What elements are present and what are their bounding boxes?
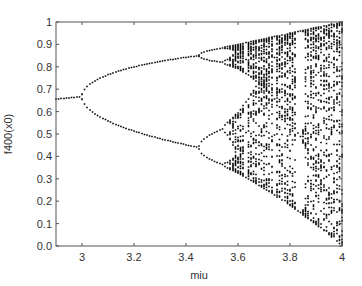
y-tick-label: 0.1 — [37, 218, 52, 230]
y-tick-label: 0.2 — [37, 195, 52, 207]
x-tick-label: 3.4 — [178, 251, 193, 263]
x-axis-label: miu — [190, 269, 208, 281]
x-tick-label: 3.6 — [230, 251, 245, 263]
x-tick-label: 3 — [79, 251, 85, 263]
y-tick-label: 0.8 — [37, 61, 52, 73]
y-tick-label: 0.0 — [37, 240, 52, 252]
x-tick-label: 4 — [339, 251, 345, 263]
y-tick-label: 0.3 — [37, 173, 52, 185]
y-tick-label: 0.7 — [37, 83, 52, 95]
y-axis-ticks: 0.00.10.20.30.40.50.60.70.80.91 — [37, 16, 342, 252]
y-tick-label: 0.5 — [37, 128, 52, 140]
scatter-points — [55, 21, 343, 246]
y-tick-label: 0.6 — [37, 106, 52, 118]
y-axis-label: f400(x0) — [2, 114, 14, 154]
y-tick-label: 0.4 — [37, 150, 52, 162]
y-tick-label: 0.9 — [37, 38, 52, 50]
x-tick-label: 3.8 — [282, 251, 297, 263]
bifurcation-chart: 33.23.43.63.84 0.00.10.20.30.40.50.60.70… — [0, 0, 362, 286]
x-tick-label: 3.2 — [126, 251, 141, 263]
data-points — [55, 21, 343, 246]
y-tick-label: 1 — [46, 16, 52, 28]
